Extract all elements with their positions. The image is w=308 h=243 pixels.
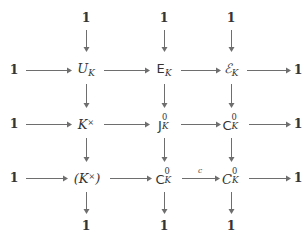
vertical-arrow-r2r3-col1 [82, 138, 91, 162]
node-script-E-K: ℰK [224, 62, 239, 78]
row1-left-terminal: 1 [10, 64, 19, 77]
vertical-arrow-bottom-col2 [160, 192, 169, 214]
row2-left-terminal: 1 [10, 118, 19, 131]
row2-arrow-2 [104, 120, 150, 129]
node-K-times: K× [78, 118, 94, 131]
node-C-K-0-bottom: C0K [155, 171, 172, 186]
top-terminal-col3: 1 [227, 12, 236, 25]
row1-arrow-4 [247, 66, 291, 75]
vertical-arrow-r1r2-col1 [82, 84, 91, 108]
vertical-arrow-top-col1 [82, 30, 91, 52]
node-U-K: UK [77, 62, 95, 78]
node-paren-K-times: (K×) [74, 172, 100, 185]
vertical-arrow-bottom-col1 [82, 192, 91, 214]
row2-arrow-1 [26, 120, 72, 129]
vertical-arrow-r1r2-col2 [160, 84, 169, 108]
bottom-terminal-col1: 1 [82, 220, 91, 233]
row3-right-terminal: 1 [294, 172, 303, 185]
node-C-K-0: C0K [222, 117, 239, 132]
row3-left-terminal: 1 [10, 172, 19, 185]
vertical-arrow-bottom-col3 [227, 192, 236, 214]
bottom-terminal-col3: 1 [227, 220, 236, 233]
row1-arrow-2 [104, 66, 150, 75]
row2-arrow-3 [181, 120, 221, 129]
row2-arrow-4 [249, 120, 291, 129]
vertical-arrow-top-col2 [160, 30, 169, 52]
top-terminal-col1: 1 [82, 12, 91, 25]
row1-arrow-3 [181, 66, 221, 75]
row1-right-terminal: 1 [294, 64, 303, 77]
row3-arrow-1 [26, 174, 68, 183]
top-terminal-col2: 1 [160, 12, 169, 25]
vertical-arrow-r2r3-col3 [227, 138, 236, 162]
vertical-arrow-r2r3-col2 [160, 138, 169, 162]
row1-arrow-1 [26, 66, 72, 75]
vertical-arrow-top-col3 [227, 30, 236, 52]
node-script-C-K-0: C0K [222, 171, 240, 186]
vertical-arrow-r1r2-col3 [227, 84, 236, 108]
node-E-K: EK [157, 62, 172, 78]
row3-arrow-2 [110, 174, 152, 183]
node-J-K-0: J0K [158, 117, 170, 132]
commutative-diagram: 1 1 1 1 UK EK ℰK 1 1 [0, 0, 308, 243]
row3-arrow-3 [182, 174, 220, 183]
row3-arrow-4 [249, 174, 291, 183]
bottom-terminal-col2: 1 [160, 220, 169, 233]
row2-right-terminal: 1 [294, 118, 303, 131]
